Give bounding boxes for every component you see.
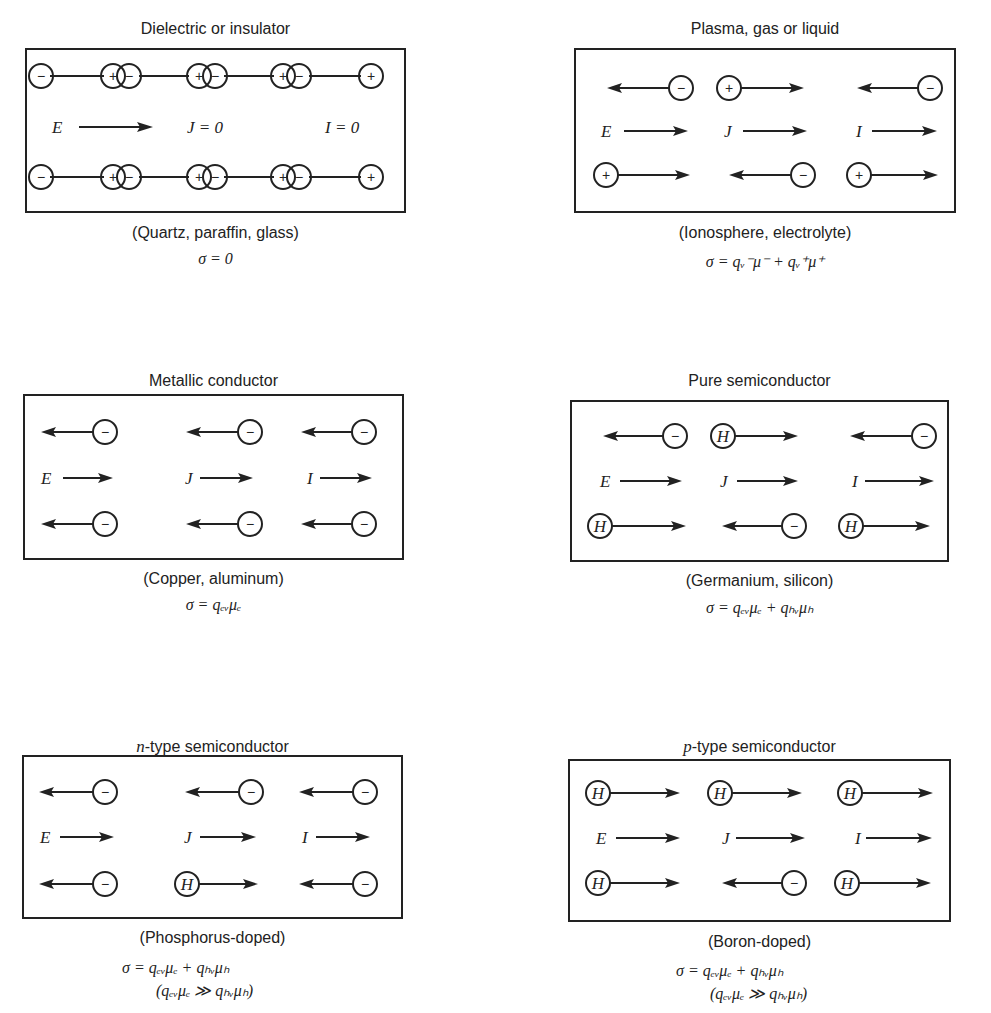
examples-caption: (Germanium, silicon) [570,572,949,590]
current-label: I [851,472,859,491]
e-field-label: E [599,472,611,491]
diagram-box: −−− −− H E J I [22,755,403,919]
panel-title: p-type semiconductor [568,737,951,757]
conductivity-formula: σ = qₑᵥμₑ + qₕᵥμₕ [676,961,783,980]
svg-text:H: H [716,427,731,446]
svg-text:H: H [591,784,606,803]
conductivity-formula: σ = 0 [25,250,406,268]
svg-text:−: − [677,80,685,96]
panel-title: Plasma, gas or liquid [574,20,956,38]
svg-text:−: − [926,80,934,96]
current-density-label: J [724,122,733,141]
conductivity-condition: (qₑᵥμₑ ≫ qₕᵥμₕ) [710,984,807,1003]
svg-text:+: + [279,169,287,185]
svg-text:−: − [37,169,45,185]
svg-text:−: − [101,784,109,800]
panel-title: Metallic conductor [23,372,404,390]
diagram-box: −−− −−− E J I [23,394,404,560]
svg-text:+: + [367,68,375,84]
diagram-box: −−− HHH E J I [570,400,949,562]
svg-text:−: − [361,876,369,892]
svg-text:+: + [195,68,203,84]
svg-text:−: − [246,424,254,440]
carrier-flow-diagram: −−− −−− E J I [25,396,401,557]
svg-text:−: − [361,784,369,800]
svg-text:−: − [246,516,254,532]
svg-text:H: H [591,874,606,893]
current-label: I = 0 [324,118,360,137]
panel-title: Pure semiconductor [570,372,949,390]
svg-text:−: − [211,68,219,84]
carrier-flow-diagram: −−− HHH E J I [572,402,946,559]
svg-text:−: − [360,424,368,440]
panel-n-type: n-type semiconductor −−− −− H E [22,725,403,1013]
examples-caption: (Phosphorus-doped) [22,929,403,947]
svg-text:+: + [109,68,117,84]
svg-text:−: − [671,428,679,444]
current-density-label: J [185,469,194,488]
examples-caption: (Ionosphere, electrolyte) [574,224,956,242]
svg-text:+: + [855,167,863,183]
svg-text:H: H [844,517,859,536]
title-text: -type semiconductor [145,738,289,755]
title-prefix: n [136,737,145,756]
examples-caption: (Boron-doped) [568,933,951,951]
svg-text:−: − [101,516,109,532]
panel-dielectric: Dielectric or insulator −+−+ [25,0,406,280]
svg-text:−: − [790,875,798,891]
diagram-box: −+−+ −+−+ −+−+ −+−+ E J = 0 I = 0 [25,48,406,213]
current-label: I [854,829,862,848]
current-label: I [306,469,314,488]
current-density-label: J [722,829,731,848]
svg-text:H: H [180,875,195,894]
svg-text:−: − [799,167,807,183]
conductivity-formula: σ = qₑᵥμₑ + qₕᵥμₕ [122,958,229,977]
svg-text:H: H [593,517,608,536]
current-density-label: J [184,828,193,847]
diagram-box: − HHH HH E J I [568,759,951,922]
examples-caption: (Quartz, paraffin, glass) [25,224,406,242]
carrier-flow-diagram: −+− +−+ E J I [576,50,953,210]
svg-text:−: − [295,68,303,84]
svg-text:−: − [37,68,45,84]
conductivity-condition: (qₑᵥμₑ ≫ qₕᵥμₕ) [156,981,253,1000]
svg-text:H: H [713,784,728,803]
e-field-label: E [40,469,52,488]
svg-text:−: − [360,516,368,532]
svg-text:−: − [920,428,928,444]
panel-pure-semiconductor: Pure semiconductor −−− HHH [570,360,949,640]
svg-text:−: − [125,68,133,84]
svg-text:+: + [367,169,375,185]
panel-plasma: Plasma, gas or liquid −+− [574,0,956,280]
svg-text:−: − [101,424,109,440]
svg-text:+: + [195,169,203,185]
carrier-flow-diagram: −−− −− H E J I [24,757,400,916]
svg-text:+: + [602,167,610,183]
diagram-box: −+− +−+ E J I [574,48,956,213]
examples-caption: (Copper, aluminum) [23,570,404,588]
e-field-label: E [51,118,63,137]
svg-text:−: − [211,169,219,185]
svg-text:−: − [790,518,798,534]
title-prefix: p [683,737,692,756]
panel-p-type: p-type semiconductor − HHH HH E [568,725,951,1013]
conductivity-formula: σ = qₑᵥμₑ [23,596,404,614]
panel-title: Dielectric or insulator [25,20,406,38]
svg-text:−: − [101,876,109,892]
dipole-chain-diagram: −+−+ −+−+ −+−+ −+−+ E J = 0 I = 0 [27,50,403,210]
conductivity-formula: σ = qₑᵥμₑ + qₕᵥμₕ [570,598,949,617]
svg-text:−: − [247,784,255,800]
current-label: I [855,122,863,141]
svg-text:−: − [295,169,303,185]
svg-text:+: + [109,169,117,185]
current-label: I [301,828,309,847]
current-density-label: J = 0 [187,118,224,137]
svg-text:+: + [725,80,733,96]
svg-text:H: H [840,874,855,893]
panel-metallic: Metallic conductor −−− −−− E J [23,360,404,640]
e-field-label: E [595,829,607,848]
e-field-label: E [600,122,612,141]
conductivity-formula: σ = qᵥ⁻μ⁻ + qᵥ⁺μ⁺ [574,252,956,271]
panel-title: n-type semiconductor [22,737,403,757]
svg-text:H: H [843,784,858,803]
